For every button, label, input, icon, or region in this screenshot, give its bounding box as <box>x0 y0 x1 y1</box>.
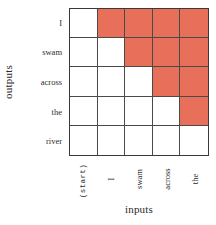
matrix-cell <box>180 126 208 155</box>
row-label: swam <box>16 38 67 68</box>
attention-mask-matrix <box>69 8 209 156</box>
row-label: the <box>16 97 67 127</box>
row-label: across <box>16 67 67 97</box>
matrix-cell <box>180 67 208 96</box>
x-axis-title: inputs <box>69 203 209 215</box>
column-label-group: (start) I swam across the <box>69 157 209 202</box>
matrix-cell <box>98 9 126 38</box>
matrix-cell <box>153 97 181 126</box>
y-axis-title-label: outputs <box>2 65 14 99</box>
column-label: swam <box>125 157 153 202</box>
row-label-group: I swam across the river <box>16 8 67 156</box>
column-label-text: (start) <box>79 164 87 198</box>
matrix-cell <box>70 38 98 67</box>
column-label: (start) <box>69 157 97 202</box>
matrix-cell <box>98 126 126 155</box>
matrix-cell <box>70 67 98 96</box>
matrix-cell <box>98 38 126 67</box>
matrix-cell <box>153 9 181 38</box>
matrix-cell <box>125 67 153 96</box>
row-label: I <box>16 8 67 38</box>
matrix-cell <box>70 97 98 126</box>
column-label: I <box>97 157 125 202</box>
column-label: across <box>153 157 181 202</box>
matrix-cell <box>98 67 126 96</box>
matrix-cell <box>153 126 181 155</box>
column-label: the <box>181 157 209 202</box>
matrix-cell <box>153 67 181 96</box>
matrix-cell <box>180 97 208 126</box>
row-label: river <box>16 126 67 156</box>
matrix-cell <box>180 9 208 38</box>
matrix-cell <box>125 97 153 126</box>
matrix-cell <box>125 126 153 155</box>
column-label-text: across <box>162 168 172 189</box>
matrix-cell <box>125 9 153 38</box>
matrix-cell <box>180 38 208 67</box>
column-label-text: the <box>190 174 200 184</box>
column-label-text: I <box>106 178 116 181</box>
matrix-cell <box>125 38 153 67</box>
matrix-cell <box>153 38 181 67</box>
matrix-cell <box>98 97 126 126</box>
y-axis-title: outputs <box>0 8 16 156</box>
matrix-cell <box>70 126 98 155</box>
matrix-cell <box>70 9 98 38</box>
column-label-text: swam <box>134 169 144 189</box>
